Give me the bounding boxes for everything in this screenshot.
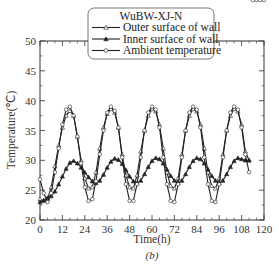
y-tick-label: 45 <box>25 65 37 77</box>
y-tick-label: 50 <box>25 35 37 47</box>
filled-triangle-marker <box>142 172 146 176</box>
x-axis-title: Time(h) <box>133 233 170 246</box>
filled-triangle-marker <box>236 156 240 160</box>
x-tick-label: 120 <box>256 223 273 235</box>
open-circle-marker <box>180 156 184 160</box>
open-circle-marker <box>49 191 53 195</box>
open-circle-marker <box>76 135 80 139</box>
open-circle-marker <box>232 105 236 109</box>
x-tick-label: 96 <box>214 223 226 235</box>
filled-triangle-marker <box>60 174 64 178</box>
open-circle-marker <box>117 126 121 130</box>
open-circle-marker <box>169 199 173 203</box>
open-circle-marker <box>244 153 248 157</box>
y-tick-label: 25 <box>25 184 37 196</box>
open-circle-marker <box>79 162 83 166</box>
open-circle-marker <box>199 126 203 130</box>
open-circle-marker <box>128 199 132 203</box>
series-line <box>40 107 249 202</box>
open-circle-marker <box>251 0 255 2</box>
open-circle-marker <box>146 111 150 115</box>
x-tick-label: 108 <box>233 223 250 235</box>
open-circle-marker <box>165 182 169 186</box>
open-circle-marker <box>184 129 188 133</box>
open-circle-marker <box>210 199 214 203</box>
open-circle-marker <box>87 199 91 203</box>
open-circle-marker <box>124 182 128 186</box>
y-tick-label: 35 <box>25 125 37 137</box>
y-tick-label: 30 <box>25 154 37 166</box>
x-tick-label: 12 <box>57 223 68 235</box>
open-circle-marker <box>214 200 218 204</box>
filled-triangle-marker <box>53 189 57 193</box>
open-circle-marker <box>38 178 42 182</box>
open-circle-marker <box>98 153 102 157</box>
open-circle-marker <box>68 105 72 109</box>
open-circle-marker <box>236 108 240 112</box>
legend-label: Inner surface of wall <box>123 33 218 45</box>
y-axis-title: Temperature(℃) <box>5 91 18 170</box>
open-circle-marker <box>221 156 225 160</box>
open-circle-marker <box>61 123 65 127</box>
open-circle-marker <box>154 108 158 112</box>
open-circle-marker <box>150 105 154 109</box>
legend-label: Ambient temperature <box>123 44 221 57</box>
filled-triangle-marker <box>195 156 199 160</box>
open-circle-marker <box>143 129 147 133</box>
open-circle-marker <box>72 114 76 118</box>
open-circle-marker <box>188 111 192 115</box>
figure-caption: (b) <box>146 249 159 262</box>
open-circle-marker <box>94 179 98 183</box>
open-circle-marker <box>120 156 124 160</box>
open-circle-marker <box>64 108 68 112</box>
open-circle-marker <box>258 0 262 2</box>
open-circle-marker <box>139 156 143 160</box>
filled-triangle-marker <box>184 172 188 176</box>
legend: WuBW-XJ-N Outer surface of wallInner sur… <box>88 8 221 59</box>
plot-frame <box>40 41 264 220</box>
x-tick-label: 84 <box>191 223 203 235</box>
open-triangle-marker <box>169 184 173 188</box>
open-circle-marker <box>90 197 94 201</box>
y-tick-label: 20 <box>25 214 37 226</box>
filled-triangle-marker <box>154 156 158 160</box>
open-circle-marker <box>225 129 229 133</box>
series-line <box>40 109 249 201</box>
y-tick-label: 40 <box>25 95 37 107</box>
open-circle-marker <box>158 126 162 130</box>
open-circle-marker <box>176 182 180 186</box>
open-circle-marker <box>102 129 106 133</box>
open-triangle-marker <box>128 185 132 189</box>
open-circle-marker <box>113 109 117 113</box>
axes: 0122436486072849610812020253035404550 <box>25 35 273 235</box>
open-circle-marker <box>255 0 259 2</box>
temperature-line-chart: 0122436486072849610812020253035404550 Te… <box>0 0 279 266</box>
open-circle-marker <box>229 111 233 115</box>
open-circle-marker <box>132 199 136 203</box>
open-circle-marker <box>83 185 87 189</box>
series-outer-surface-of-wall <box>38 107 251 203</box>
open-circle-marker <box>173 200 177 204</box>
open-circle-marker <box>53 170 57 174</box>
filled-triangle-marker <box>101 173 105 177</box>
open-circle-marker <box>217 182 221 186</box>
open-circle-marker <box>57 147 61 151</box>
open-circle-marker <box>240 126 244 130</box>
filled-triangle-marker <box>57 182 61 186</box>
open-circle-marker <box>105 111 109 115</box>
filled-triangle-marker <box>113 156 117 160</box>
open-circle-marker <box>195 108 199 112</box>
open-triangle-marker <box>90 185 94 189</box>
open-circle-marker <box>247 170 251 174</box>
open-triangle-marker <box>210 184 214 188</box>
open-circle-marker <box>206 182 210 186</box>
open-circle-marker <box>191 105 195 109</box>
open-circle-marker <box>262 0 266 2</box>
open-circle-marker <box>135 182 139 186</box>
open-circle-marker <box>104 49 108 53</box>
open-circle-marker <box>109 105 113 109</box>
x-tick-label: 24 <box>79 223 91 235</box>
x-tick-label: 36 <box>102 223 114 235</box>
open-circle-marker <box>161 156 165 160</box>
filled-triangle-marker <box>72 159 76 163</box>
